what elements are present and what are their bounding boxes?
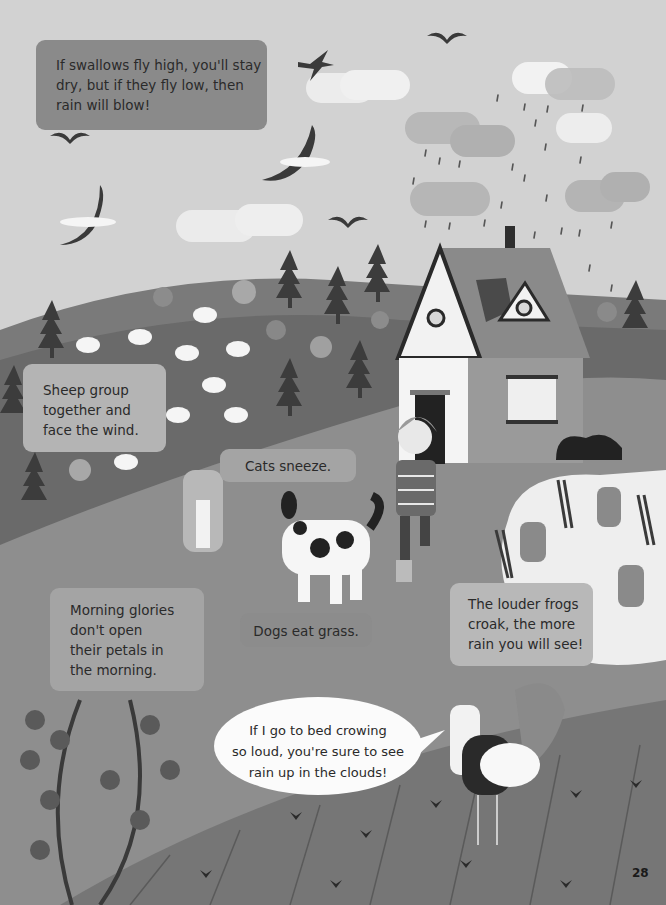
caption-line: dry, but if they fly low, then (56, 75, 267, 95)
caption-line: their petals in (70, 640, 204, 660)
caption-line: the morning. (70, 660, 204, 680)
speech-line: If I go to bed crowing (214, 720, 422, 741)
rooster-speech-bubble: If I go to bed crowing so loud, you're s… (214, 697, 422, 795)
dogs-caption: Dogs eat grass. (240, 613, 372, 647)
book-page: If swallows fly high, you'll stay dry, b… (0, 0, 666, 905)
sheep-caption: Sheep group together and face the wind. (23, 364, 166, 452)
swallows-caption: If swallows fly high, you'll stay dry, b… (36, 40, 267, 130)
caption-line: don't open (70, 620, 204, 640)
morning-glories-caption: Morning glories don't open their petals … (50, 588, 204, 691)
caption-line: The louder frogs (468, 594, 593, 614)
speech-line: rain up in the clouds! (214, 762, 422, 783)
cats-caption: Cats sneeze. (220, 449, 356, 482)
caption-line: croak, the more (468, 614, 593, 634)
caption-line: Morning glories (70, 600, 204, 620)
caption-line: rain will blow! (56, 95, 267, 115)
page-number: 28 (632, 866, 649, 880)
caption-line: Dogs eat grass. (240, 621, 372, 641)
caption-line: face the wind. (43, 420, 166, 440)
caption-line: rain you will see! (468, 634, 593, 654)
cat-illustration (183, 470, 223, 552)
frogs-caption: The louder frogs croak, the more rain yo… (450, 583, 593, 666)
caption-line: Sheep group (43, 380, 166, 400)
speech-line: so loud, you're sure to see (214, 741, 422, 762)
caption-line: together and (43, 400, 166, 420)
caption-line: If swallows fly high, you'll stay (56, 55, 267, 75)
caption-line: Cats sneeze. (220, 456, 356, 476)
